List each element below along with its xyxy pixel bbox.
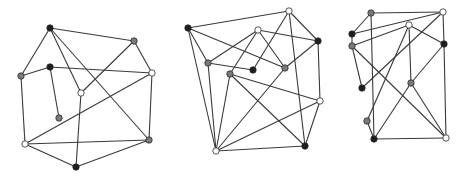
graph-edge xyxy=(21,76,25,144)
graph-edge xyxy=(409,25,411,83)
graph-node-black xyxy=(349,31,355,37)
graph-node-black xyxy=(359,85,365,91)
graph-node-gray xyxy=(408,80,414,86)
graph-edge xyxy=(289,11,305,146)
graph-edge xyxy=(188,28,208,63)
graph-node-gray xyxy=(368,10,374,16)
graph-node-white xyxy=(443,135,449,141)
graph-node-gray xyxy=(364,118,370,124)
graph-node-gray xyxy=(227,71,233,77)
graph-node-black xyxy=(73,164,79,170)
graph-edge xyxy=(50,28,81,93)
graph-edge xyxy=(443,12,444,44)
graph-node-black xyxy=(371,136,377,142)
graph-edge xyxy=(76,93,81,167)
graph-2 xyxy=(185,8,323,154)
graph-node-black xyxy=(302,143,308,149)
graph-edge xyxy=(411,44,444,83)
graph-node-black xyxy=(441,41,447,47)
graph-node-white xyxy=(213,148,219,154)
graph-node-white xyxy=(149,70,155,76)
graph-edge xyxy=(305,101,320,146)
graph-edge xyxy=(208,30,258,63)
graph-edge xyxy=(253,11,289,70)
graph-node-white xyxy=(78,90,84,96)
graph-edge xyxy=(352,12,443,34)
graph-edge xyxy=(208,63,216,151)
graph-edge xyxy=(216,74,230,151)
graph-1 xyxy=(18,25,155,170)
graph-node-gray xyxy=(56,115,62,121)
graph-edge xyxy=(50,28,134,41)
graph-node-gray xyxy=(282,65,288,71)
graph-edge xyxy=(134,41,152,73)
graph-node-white xyxy=(286,8,292,14)
graph-edge xyxy=(188,11,289,28)
graph-node-black xyxy=(47,25,53,31)
graph-drawings-figure xyxy=(0,0,468,178)
graph-edge xyxy=(149,73,152,140)
graph-edge xyxy=(208,63,253,70)
graph-figure-svg xyxy=(0,0,468,178)
graph-edge xyxy=(318,41,320,101)
graph-edge xyxy=(285,41,318,68)
graph-edge xyxy=(50,28,149,140)
graph-edge xyxy=(50,67,152,73)
graph-edge xyxy=(362,12,443,88)
graph-edge xyxy=(25,144,76,167)
graph-edge xyxy=(76,140,149,167)
graph-node-gray xyxy=(205,60,211,66)
graph-node-gray xyxy=(349,43,355,49)
graph-edge xyxy=(367,25,409,121)
graph-node-gray xyxy=(18,73,24,79)
graph-edge xyxy=(411,83,446,138)
graph-edge xyxy=(352,46,362,88)
graph-edge xyxy=(50,67,59,118)
graph-edge xyxy=(25,73,152,144)
graph-node-black xyxy=(315,38,321,44)
graph-node-black xyxy=(185,25,191,31)
graph-node-gray xyxy=(146,137,152,143)
graph-edge xyxy=(81,41,134,93)
graph-node-black xyxy=(250,67,256,73)
graph-edge xyxy=(371,12,443,13)
graph-node-white xyxy=(22,141,28,147)
graph-edge xyxy=(352,13,371,34)
graph-3 xyxy=(349,9,449,142)
graph-node-white xyxy=(255,27,261,33)
graph-edge xyxy=(25,140,149,144)
graph-node-white xyxy=(406,22,412,28)
graph-node-white xyxy=(440,9,446,15)
graph-node-white xyxy=(317,98,323,104)
graph-edge xyxy=(374,138,446,139)
graph-edge xyxy=(216,146,305,151)
graph-node-gray xyxy=(131,38,137,44)
graph-node-black xyxy=(47,64,53,70)
graph-edge xyxy=(371,13,374,139)
graph-edge xyxy=(188,28,216,151)
graph-edge xyxy=(444,44,446,138)
graph-edge xyxy=(352,25,409,46)
